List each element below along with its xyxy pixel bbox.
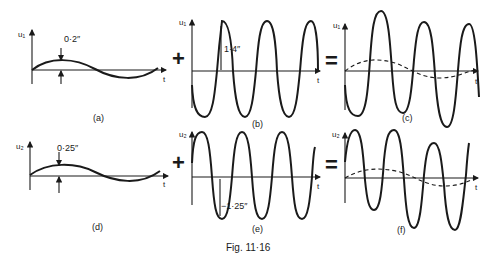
amplitude-annotation: 0·25″ bbox=[57, 143, 79, 153]
y-axis-label: u₂ bbox=[179, 130, 187, 139]
amplitude-annotation: 0·2″ bbox=[64, 34, 81, 44]
equals-operator: = bbox=[325, 48, 338, 73]
panel-b: u₁ t 1·4″ (b) bbox=[179, 18, 320, 129]
slow-wave bbox=[30, 165, 160, 181]
slow-wave bbox=[32, 60, 158, 78]
fast-wave bbox=[192, 132, 315, 219]
sum-wave bbox=[345, 130, 469, 230]
x-axis-label: t bbox=[317, 182, 320, 191]
y-axis-label: u₁ bbox=[18, 30, 25, 39]
x-axis-label: t bbox=[163, 75, 166, 84]
dashed-slow-component bbox=[345, 60, 475, 78]
panel-a: u₁ t 0·2″ (a) bbox=[18, 30, 166, 123]
amplitude-annotation: −1·25″ bbox=[221, 201, 248, 211]
panel-label: (a) bbox=[93, 113, 104, 123]
panel-f: u₂ t (f) bbox=[332, 130, 478, 235]
panel-label: (d) bbox=[92, 222, 103, 232]
y-axis-label: u₂ bbox=[332, 130, 340, 139]
panel-c: u₁ t (c) bbox=[333, 11, 479, 127]
figure-11-16: u₁ t 0·2″ (a) + u₁ t 1·4″ (b) = u₁ t (c)… bbox=[0, 0, 492, 264]
panel-label: (b) bbox=[252, 119, 263, 129]
panel-label: (c) bbox=[402, 113, 413, 123]
fast-wave bbox=[192, 21, 318, 117]
y-axis-label: u₁ bbox=[333, 21, 340, 30]
figure-caption: Fig. 11·16 bbox=[226, 242, 271, 253]
panel-e: u₂ t −1·25″ (e) bbox=[179, 130, 320, 234]
plus-operator: + bbox=[172, 150, 185, 175]
y-axis-label: u₂ bbox=[16, 142, 24, 151]
equals-operator: = bbox=[325, 152, 338, 177]
panel-label: (e) bbox=[252, 224, 263, 234]
sum-wave bbox=[345, 11, 479, 127]
amplitude-annotation: 1·4″ bbox=[224, 44, 241, 54]
panel-d: u₂ t 0·25″ (d) bbox=[16, 142, 168, 232]
x-axis-label: t bbox=[475, 183, 478, 192]
panel-label: (f) bbox=[397, 225, 406, 235]
y-axis-label: u₁ bbox=[179, 18, 186, 27]
x-axis-label: t bbox=[163, 180, 166, 189]
x-axis-label: t bbox=[317, 76, 320, 85]
plus-operator: + bbox=[172, 46, 185, 71]
